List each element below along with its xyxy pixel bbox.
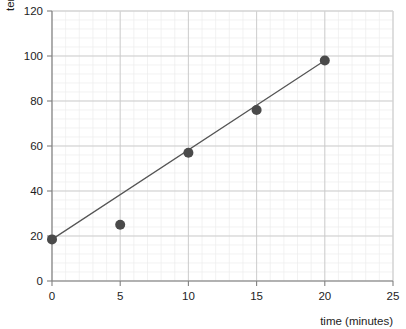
x-tick-label: 0 [49,290,55,302]
y-tick-label: 100 [24,50,43,62]
y-axis-title: temperature (°C) [4,0,16,11]
y-tick-label: 120 [24,5,43,17]
y-tick-label: 60 [30,140,43,152]
x-tick-label: 20 [318,290,331,302]
x-tick-label: 15 [250,290,263,302]
y-tick-label: 40 [30,185,43,197]
x-axis-tick-labels: 0510152025 [49,290,400,302]
chart-canvas: 0510152025 020406080100120 time (minutes… [0,0,406,329]
x-tick-label: 5 [117,290,123,302]
x-axis-title: time (minutes) [320,315,393,327]
y-tick-label: 80 [30,95,43,107]
data-point [115,220,125,230]
y-tick-label: 0 [37,275,43,287]
data-point [320,56,330,66]
data-point [47,234,57,244]
y-axis-tick-labels: 020406080100120 [24,5,43,287]
temperature-vs-time-chart: 0510152025 020406080100120 time (minutes… [0,0,406,329]
y-tick-label: 20 [30,230,43,242]
data-point [252,105,262,115]
data-point [183,148,193,158]
x-tick-label: 10 [182,290,195,302]
x-tick-label: 25 [387,290,400,302]
